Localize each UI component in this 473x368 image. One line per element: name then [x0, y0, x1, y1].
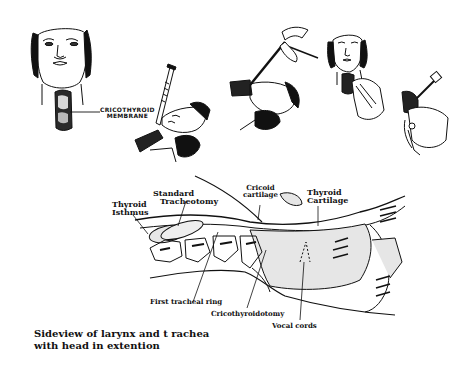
front-view-neck-panel	[31, 29, 100, 131]
cricothyroid-membrane-label: CRICOTHYROID MEMBRANE	[100, 107, 155, 119]
cricothyroid-label-line2: MEMBRANE	[100, 113, 155, 119]
tube-insertion-panel	[402, 71, 448, 155]
caption-line2: with head in extention	[34, 340, 209, 352]
figure-caption: Sideview of larynx and t rachea with hea…	[34, 328, 209, 351]
standard-tracheotomy-line2: Tracheotomy	[153, 197, 218, 205]
first-tracheal-ring-label: First tracheal ring	[150, 298, 222, 305]
vocal-cords-label: Vocal cords	[272, 322, 317, 329]
thyroid-cartilage-line2: Cartilage	[307, 196, 348, 204]
standard-tracheotomy-label: Standard Tracheotomy	[153, 189, 218, 205]
thyroid-isthmus-line2: Isthmus	[112, 208, 149, 216]
thyroid-cartilage-label: Thyroid Cartilage	[307, 188, 348, 204]
scalpel-incision-panel	[230, 27, 318, 130]
cricoid-cartilage-label: Cricoid cartilage	[243, 184, 278, 198]
dilation-front-view-panel	[328, 35, 384, 119]
cricoid-cartilage-line2: cartilage	[243, 191, 278, 198]
cricothyroidotomy-label: Cricothyroidotomy	[211, 310, 284, 317]
thyroid-isthmus-label: Thyroid Isthmus	[112, 200, 149, 216]
caption-line1: Sideview of larynx and t rachea	[34, 328, 209, 340]
